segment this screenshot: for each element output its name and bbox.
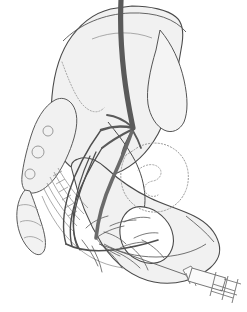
illustration-root <box>0 0 247 312</box>
pelvis-sacral-plexus-illustration <box>0 0 247 312</box>
